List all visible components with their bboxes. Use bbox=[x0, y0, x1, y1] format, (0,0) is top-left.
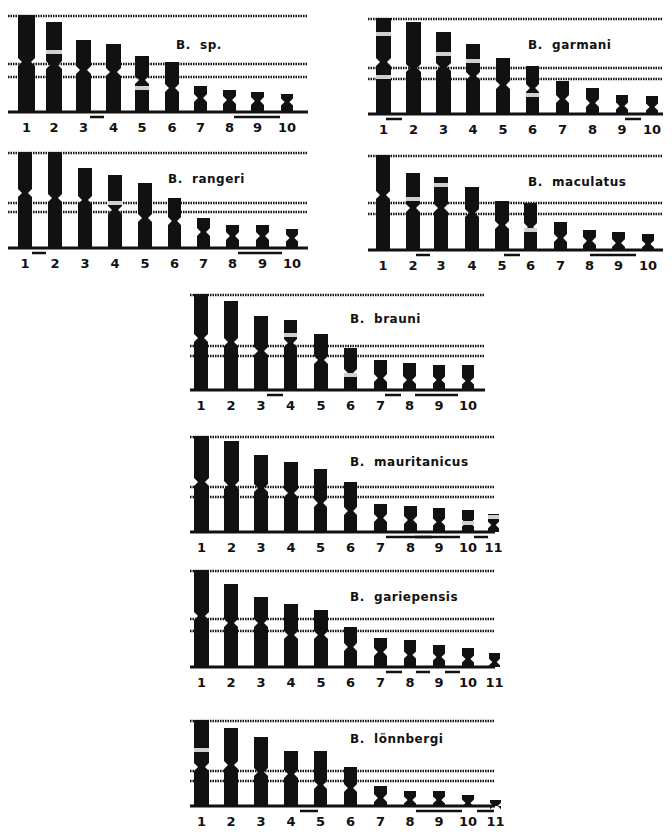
chromosome-6: 6 bbox=[165, 62, 179, 135]
species-label: B. rangeri bbox=[168, 172, 245, 186]
chromosome-2: 2 bbox=[224, 584, 238, 690]
species-label: B. brauni bbox=[350, 312, 421, 326]
chromosome-number: 1 bbox=[196, 398, 205, 413]
species-label: B. mauritanicus bbox=[350, 455, 469, 469]
chromosome-number: 4 bbox=[286, 675, 295, 690]
chromosome-6: 6 bbox=[524, 203, 537, 273]
species-label: B. sp. bbox=[176, 38, 222, 52]
chromosome-2: 2 bbox=[46, 22, 62, 135]
chromosome-number: 9 bbox=[258, 256, 267, 271]
chromosome-number: 3 bbox=[256, 398, 265, 413]
chromosome-number: 8 bbox=[228, 256, 237, 271]
chromosome-3: 3 bbox=[254, 737, 268, 829]
chromosome-number: 9 bbox=[434, 398, 443, 413]
chromosome-number: 9 bbox=[434, 540, 443, 555]
chromosome-2: 2 bbox=[224, 301, 238, 413]
chromosome-number: 10 bbox=[459, 540, 477, 555]
chromosome-number: 9 bbox=[614, 258, 623, 273]
chromosome-5: 5 bbox=[138, 183, 152, 271]
chromosome-number: 3 bbox=[79, 120, 88, 135]
chromosome-number: 5 bbox=[140, 256, 149, 271]
chromosome-number: 1 bbox=[197, 675, 206, 690]
chromosome-number: 10 bbox=[639, 258, 657, 273]
chromosome-number: 10 bbox=[278, 120, 296, 135]
chromosome-7: 7 bbox=[374, 504, 387, 555]
chromosome-1: 1 bbox=[194, 720, 209, 829]
chromosome-number: 9 bbox=[617, 122, 626, 137]
chromosome-1: 1 bbox=[194, 570, 209, 690]
chromosome-2: 2 bbox=[224, 441, 239, 555]
chromosome-3: 3 bbox=[78, 168, 92, 271]
karyotype-panel-b-brauni: 12345678910B. brauni bbox=[190, 290, 490, 420]
chromosome-10: 10 bbox=[459, 648, 477, 690]
species-label: B. maculatus bbox=[528, 175, 626, 189]
chromosome-1: 1 bbox=[194, 436, 209, 555]
chromosome-number: 5 bbox=[497, 258, 506, 273]
chromosome-number: 4 bbox=[110, 256, 119, 271]
chromosome-number: 10 bbox=[459, 675, 477, 690]
chromosome-number: 6 bbox=[346, 675, 355, 690]
chromosome-number: 1 bbox=[197, 540, 206, 555]
chromosome-6: 6 bbox=[168, 198, 181, 271]
chromosome-number: 2 bbox=[409, 122, 418, 137]
chromosome-number: 2 bbox=[226, 398, 235, 413]
chromosome-5: 5 bbox=[314, 610, 328, 690]
chromosome-5: 5 bbox=[314, 334, 328, 413]
chromosome-number: 4 bbox=[286, 814, 295, 829]
chromosome-2: 2 bbox=[406, 173, 420, 273]
chromosome-9: 9 bbox=[612, 232, 625, 273]
chromosome-number: 7 bbox=[376, 540, 385, 555]
chromosome-number: 2 bbox=[50, 256, 59, 271]
idiogram: 12345678910 bbox=[368, 150, 668, 280]
karyotype-panel-b-sp: 12345678910B. sp. bbox=[8, 10, 313, 138]
chromosome-3: 3 bbox=[434, 177, 448, 273]
chromosome-number: 8 bbox=[585, 258, 594, 273]
chromosome-3: 3 bbox=[76, 40, 91, 135]
chromosome-number: 8 bbox=[405, 675, 414, 690]
chromosome-number: 11 bbox=[486, 814, 504, 829]
idiogram: 1234567891011 bbox=[190, 570, 500, 695]
chromosome-5: 5 bbox=[314, 751, 327, 829]
karyotype-panel-b-gariepensis: 1234567891011B. gariepensis bbox=[190, 570, 500, 695]
chromosome-4: 4 bbox=[466, 44, 480, 137]
chromosome-4: 4 bbox=[106, 44, 121, 135]
chromosome-5: 5 bbox=[314, 469, 327, 555]
chromosome-number: 3 bbox=[256, 814, 265, 829]
idiogram: 12345678910 bbox=[8, 10, 313, 138]
chromosome-number: 2 bbox=[226, 675, 235, 690]
chromosome-number: 2 bbox=[227, 540, 236, 555]
chromosome-number: 6 bbox=[526, 258, 535, 273]
chromosome-11: 11 bbox=[485, 653, 503, 690]
chromosome-4: 4 bbox=[108, 175, 122, 271]
chromosome-number: 9 bbox=[253, 120, 262, 135]
chromosome-8: 8 bbox=[403, 363, 416, 413]
chromosome-10: 10 bbox=[643, 96, 661, 137]
chromosome-8: 8 bbox=[226, 225, 239, 271]
species-label: B. garmani bbox=[528, 38, 611, 52]
chromosome-5: 5 bbox=[135, 56, 149, 135]
chromosome-3: 3 bbox=[436, 32, 451, 137]
chromosome-number: 6 bbox=[346, 540, 355, 555]
chromosome-number: 9 bbox=[434, 675, 443, 690]
chromosome-number: 10 bbox=[459, 814, 477, 829]
chromosome-number: 9 bbox=[434, 814, 443, 829]
chromosome-9: 9 bbox=[433, 508, 445, 555]
chromosome-number: 6 bbox=[528, 122, 537, 137]
chromosome-1: 1 bbox=[18, 15, 35, 135]
chromosome-11: 11 bbox=[484, 514, 502, 555]
chromosome-5: 5 bbox=[496, 58, 510, 137]
idiogram: 12345678910 bbox=[368, 10, 668, 138]
chromosome-number: 11 bbox=[484, 540, 502, 555]
chromosome-number: 2 bbox=[408, 258, 417, 273]
chromosome-number: 10 bbox=[459, 398, 477, 413]
chromosome-number: 7 bbox=[556, 258, 565, 273]
species-label: B. lönnbergi bbox=[350, 732, 443, 746]
chromosome-7: 7 bbox=[374, 360, 387, 413]
chromosome-number: 3 bbox=[439, 122, 448, 137]
chromosome-number: 5 bbox=[316, 398, 325, 413]
chromosome-1: 1 bbox=[376, 155, 390, 273]
chromosome-number: 3 bbox=[256, 540, 265, 555]
chromosome-number: 6 bbox=[170, 256, 179, 271]
chromosome-8: 8 bbox=[404, 506, 417, 555]
chromosome-9: 9 bbox=[616, 95, 628, 137]
